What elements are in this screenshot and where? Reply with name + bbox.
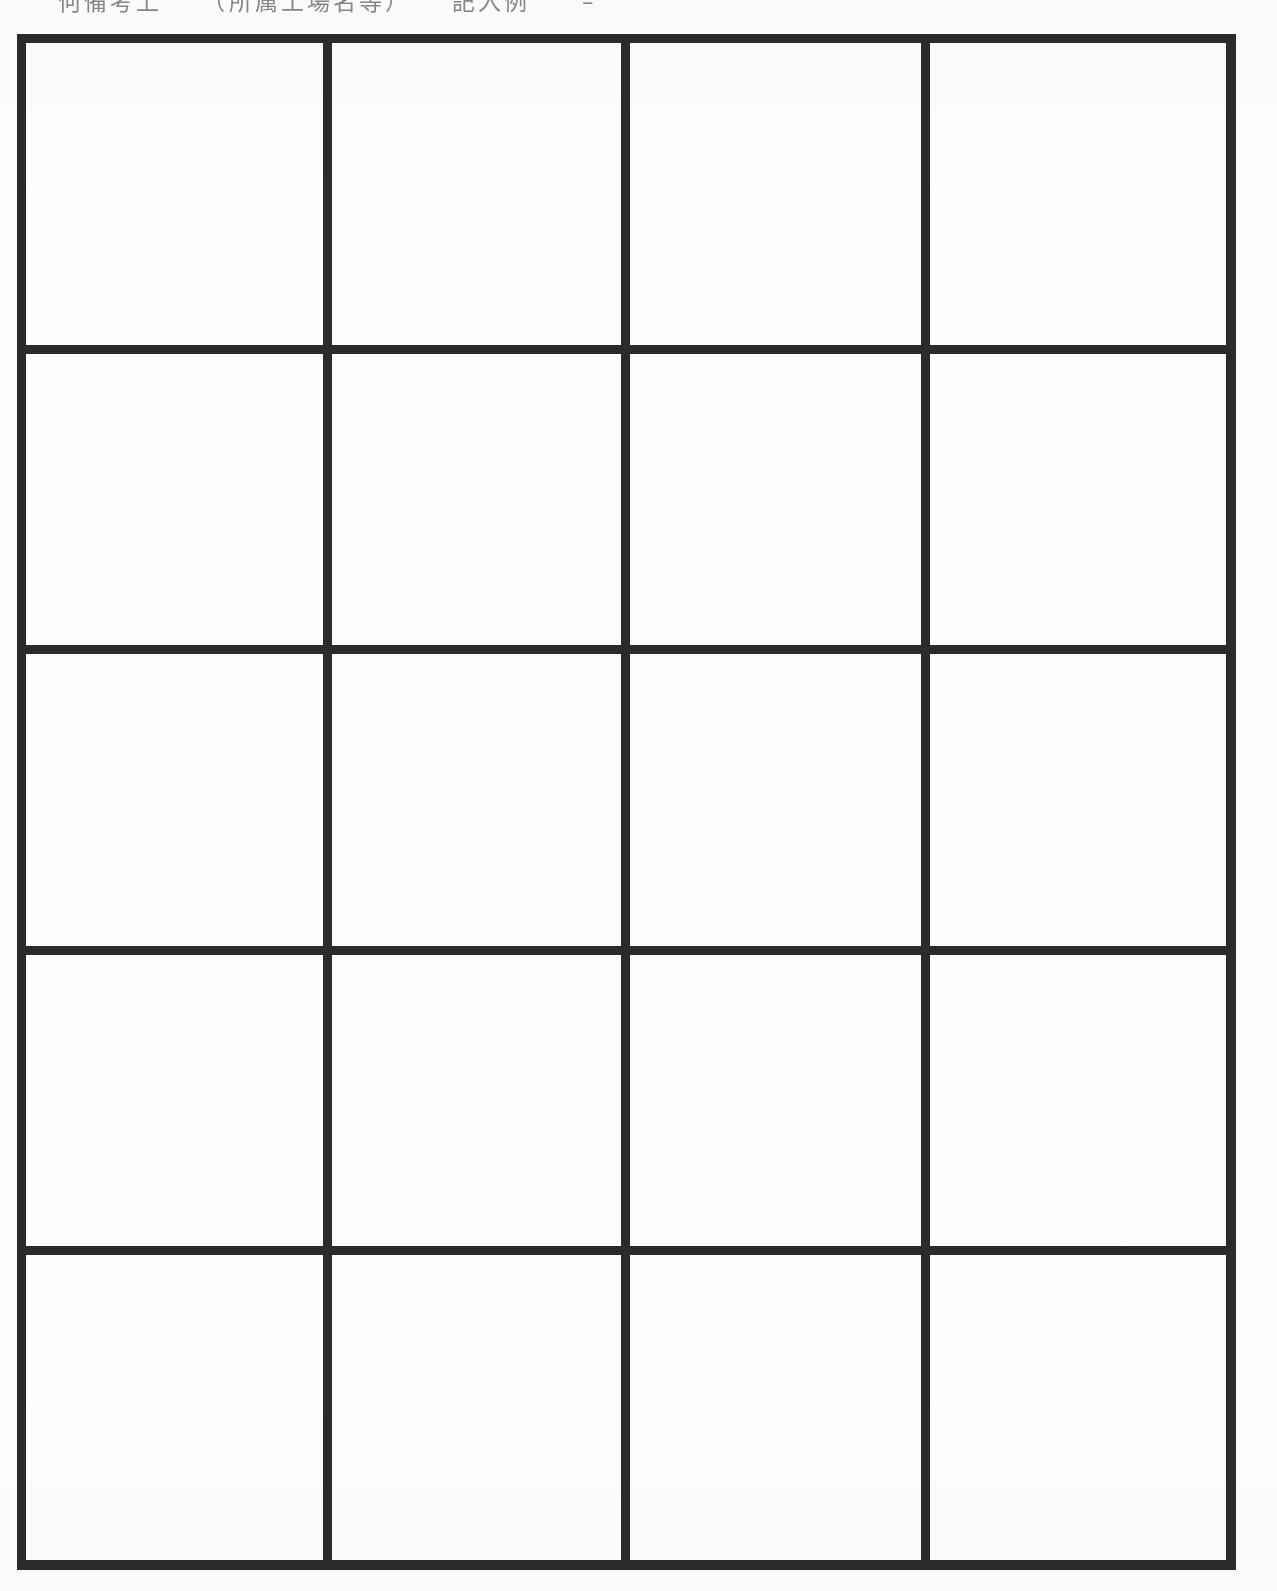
cell-text [630,1255,922,1560]
table-cell[interactable] [328,950,626,1250]
table-cell[interactable] [328,349,626,649]
table-cell[interactable] [926,1251,1231,1565]
cell-text [332,43,621,345]
cell-text [332,1255,621,1560]
cell-text [332,354,621,645]
table-cell[interactable] [22,39,328,350]
blank-table [17,34,1236,1570]
table-grid [17,34,1236,1570]
table-cell[interactable] [625,39,926,350]
table-row [22,1251,1232,1565]
table-cell[interactable] [625,650,926,950]
table-cell[interactable] [22,349,328,649]
cell-text [930,955,1226,1246]
table-cell[interactable] [22,650,328,950]
table-cell[interactable] [926,349,1231,649]
cell-text [26,955,323,1246]
table-cell[interactable] [328,1251,626,1565]
cell-text [630,43,922,345]
cell-text [930,354,1226,645]
cell-text [630,654,922,945]
cell-text [332,955,621,1246]
cell-text [630,354,922,645]
cell-text [630,955,922,1246]
cell-text [930,1255,1226,1560]
table-cell[interactable] [328,650,626,950]
cell-text [332,654,621,945]
clipped-header-line: 何備考上 （所属工場名等） 記入例 – [58,0,597,14]
cell-text [26,1255,323,1560]
table-row [22,349,1232,649]
table-body [22,39,1232,1566]
cell-text [930,43,1226,345]
table-row [22,950,1232,1250]
table-cell[interactable] [328,39,626,350]
table-row [22,39,1232,350]
table-cell[interactable] [22,1251,328,1565]
cell-text [26,654,323,945]
table-cell[interactable] [926,950,1231,1250]
table-row [22,650,1232,950]
table-cell[interactable] [22,950,328,1250]
table-cell[interactable] [926,39,1231,350]
table-cell[interactable] [926,650,1231,950]
cell-text [26,354,323,645]
cell-text [26,43,323,345]
table-cell[interactable] [625,349,926,649]
table-cell[interactable] [625,1251,926,1565]
table-cell[interactable] [625,950,926,1250]
clipped-header-text-strip: 何備考上 （所属工場名等） 記入例 – [0,0,1277,14]
cell-text [930,654,1226,945]
scanned-page: 何備考上 （所属工場名等） 記入例 – [0,0,1277,1591]
